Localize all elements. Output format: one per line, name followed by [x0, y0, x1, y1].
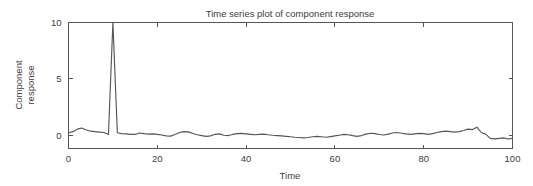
y-tick-label-10: 10 [51, 17, 62, 28]
x-tick-label-100: 100 [505, 153, 521, 164]
x-axis-ticks [69, 23, 513, 149]
time-series-plot: Time series plot of component response 0… [0, 0, 533, 186]
x-axis-tick-labels: 020406080100 [66, 153, 521, 164]
x-tick-label-60: 60 [330, 153, 341, 164]
plot-frame [69, 23, 513, 149]
x-axis-label: Time [280, 170, 301, 181]
x-tick-label-0: 0 [66, 153, 71, 164]
x-tick-label-40: 40 [241, 153, 252, 164]
x-tick-label-80: 80 [418, 153, 429, 164]
chart-title: Time series plot of component response [206, 8, 375, 19]
y-tick-label-5: 5 [56, 73, 61, 84]
y-axis-label-line2: response [25, 65, 36, 104]
chart-figure: Time series plot of component response 0… [0, 0, 533, 186]
y-axis-label: Component response [13, 60, 36, 109]
data-series-group [69, 23, 513, 140]
y-tick-label-0: 0 [56, 130, 61, 141]
x-tick-label-20: 20 [152, 153, 163, 164]
series-line-0 [69, 23, 513, 140]
y-axis-label-line1: Component [13, 60, 24, 109]
y-axis-ticks [69, 23, 513, 136]
y-axis-tick-labels: 0510 [51, 17, 62, 141]
